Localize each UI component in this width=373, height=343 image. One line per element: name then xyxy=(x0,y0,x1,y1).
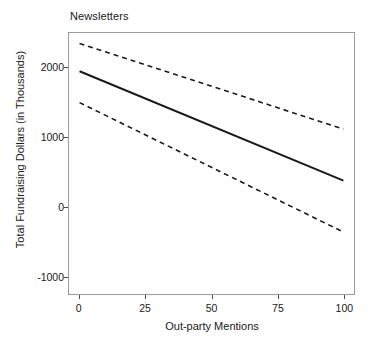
y-axis-ticks: 200010000-1000 xyxy=(20,32,64,295)
plot-panel xyxy=(68,32,355,295)
x-tick-label: 25 xyxy=(125,302,165,314)
plot-lines xyxy=(69,33,354,294)
series-line-lower-confidence-bound xyxy=(80,103,344,232)
x-axis-title: Out-party Mentions xyxy=(68,320,356,332)
series-line-upper-confidence-bound xyxy=(80,43,344,129)
x-tick-mark xyxy=(278,295,279,299)
series-line-fit xyxy=(80,71,344,180)
y-tick-label: 2000 xyxy=(24,61,64,73)
x-tick-mark xyxy=(79,295,80,299)
chart-figure: Newsletters Total Fundraising Dollars (i… xyxy=(0,0,373,343)
x-tick-label: 75 xyxy=(258,302,298,314)
x-tick-label: 100 xyxy=(324,302,364,314)
x-tick-label: 0 xyxy=(59,302,99,314)
x-tick-mark xyxy=(145,295,146,299)
y-tick-label: -1000 xyxy=(24,271,64,283)
x-tick-label: 50 xyxy=(192,302,232,314)
x-tick-mark xyxy=(344,295,345,299)
y-tick-label: 1000 xyxy=(24,131,64,143)
plot-title: Newsletters xyxy=(70,10,129,22)
y-tick-label: 0 xyxy=(24,201,64,213)
x-tick-mark xyxy=(212,295,213,299)
